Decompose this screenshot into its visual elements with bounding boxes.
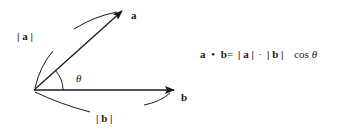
vector-a-label: a bbox=[131, 9, 137, 21]
formula-a: a bbox=[200, 48, 206, 60]
vector-b-label: b bbox=[181, 91, 187, 103]
formula-abs-a: | a | bbox=[238, 48, 254, 60]
dot-product-formula: a • b= | a | · | b | cos θ bbox=[200, 48, 317, 60]
magnitude-b-arc-left bbox=[35, 92, 90, 112]
angle-theta-label: θ bbox=[76, 72, 81, 84]
vector-diagram bbox=[0, 0, 353, 130]
formula-cos: cos bbox=[294, 48, 309, 60]
formula-theta: θ bbox=[312, 48, 317, 60]
magnitude-b-label: | b | bbox=[96, 112, 112, 124]
angle-arc bbox=[55, 70, 63, 90]
magnitude-a-label: | a | bbox=[17, 30, 33, 42]
formula-cdot: · bbox=[259, 48, 263, 60]
formula-equals: = bbox=[227, 48, 233, 60]
magnitude-b-arc-right bbox=[144, 93, 170, 105]
formula-dot: • bbox=[211, 48, 215, 60]
magnitude-a-arc-lower bbox=[35, 51, 53, 88]
formula-abs-b: | b | bbox=[267, 48, 283, 60]
